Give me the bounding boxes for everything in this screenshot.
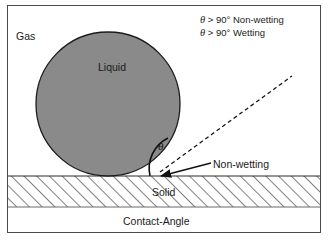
- legend-line-1: θ > 90° Non-wetting: [200, 14, 284, 27]
- label-solid: Solid: [152, 187, 175, 198]
- label-non-wetting: Non-wetting: [213, 159, 269, 170]
- label-gas: Gas: [16, 31, 35, 42]
- liquid-droplet: [36, 32, 180, 176]
- legend-text-2: > 90° Wetting: [205, 27, 265, 38]
- figure-caption: Contact-Angle: [123, 216, 190, 227]
- non-wetting-leader-arrow: [161, 163, 211, 176]
- legend-line-2: θ > 90° Wetting: [200, 27, 284, 40]
- legend-text-1: > 90° Non-wetting: [205, 14, 284, 25]
- label-liquid: Liquid: [98, 62, 126, 73]
- label-theta-symbol: θ: [158, 140, 163, 152]
- figure-stage: Gas Liquid Solid Contact-Angle Non-wetti…: [0, 0, 328, 245]
- legend: θ > 90° Non-wetting θ > 90° Wetting: [200, 14, 284, 39]
